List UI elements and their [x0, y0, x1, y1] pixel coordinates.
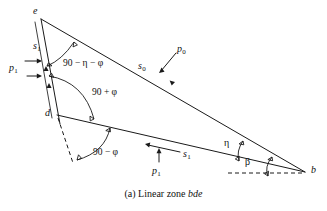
arrowhead-p1-db — [157, 148, 162, 153]
force-label-p0-eb: p0 — [177, 44, 186, 56]
arc-angle-90-plus-phi — [49, 76, 94, 119]
edge-eb — [41, 19, 305, 172]
arrowhead-p1-ed-lower — [37, 74, 42, 79]
arrowhead-s1-db — [145, 143, 150, 148]
force-subscript-s0-eb: 0 — [142, 65, 146, 73]
force-subscript-p1-db: 1 — [157, 170, 161, 178]
vertex-label-d: d — [45, 108, 50, 118]
diagram-canvas — [0, 0, 327, 211]
figure-linear-zone-bde: e d b 90 − η − φ 90 + φ 90 − φ η β s1 p1… — [0, 0, 327, 211]
angle-label-beta: β — [245, 157, 250, 167]
force-label-s1-ed: s1 — [33, 41, 41, 53]
angle-label-apex-e: 90 − η − φ — [63, 59, 103, 69]
angle-label-eta: η — [224, 138, 229, 148]
arrow-s1-db-shaft — [148, 145, 180, 152]
arrowhead-arc-apex-e-end — [73, 42, 77, 47]
force-subscript-p0-eb: 0 — [182, 48, 186, 56]
force-label-p1-db: p1 — [152, 166, 161, 178]
angle-label-90-plus-phi: 90 + φ — [92, 88, 117, 98]
caption-zone-name: bde — [188, 188, 202, 199]
dashed-extension-ed — [58, 118, 73, 163]
edge-ed-parallel — [35, 22, 52, 118]
vertex-label-b: b — [311, 165, 316, 175]
force-label-s1-db: s1 — [183, 149, 191, 161]
force-label-s0-eb: s0 — [138, 61, 146, 73]
caption-prefix: (a) Linear zone — [124, 188, 188, 199]
force-label-p1-ed: p1 — [9, 63, 18, 75]
figure-caption: (a) Linear zone bde — [0, 188, 327, 199]
arrowhead-s1-ed-lower — [47, 83, 52, 88]
arrow-p0-shaft — [161, 53, 176, 71]
force-subscript-s1-ed: 1 — [37, 45, 41, 53]
arrowhead-s1-ed-upper — [44, 66, 49, 71]
force-subscript-s1-db: 1 — [187, 153, 191, 161]
force-subscript-p1-ed: 1 — [14, 67, 18, 75]
angle-label-90-minus-phi: 90 − φ — [93, 148, 118, 158]
vertex-label-e: e — [33, 6, 37, 16]
arrowhead-s0 — [170, 81, 175, 86]
